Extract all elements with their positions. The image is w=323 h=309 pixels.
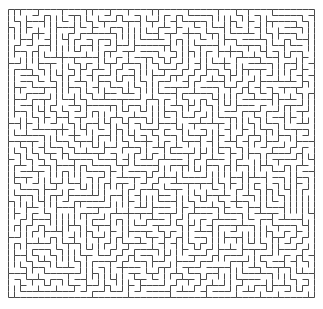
maze-page: [0, 0, 323, 309]
maze-canvas: [0, 0, 323, 309]
